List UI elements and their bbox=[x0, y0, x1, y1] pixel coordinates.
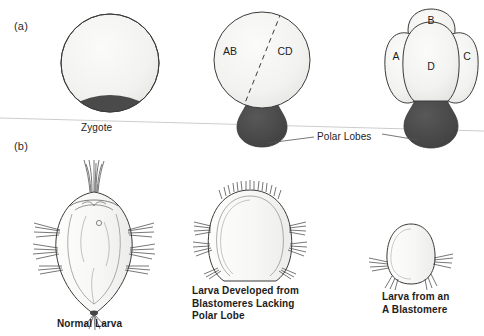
cell-label-d: D bbox=[427, 60, 435, 72]
cell-label-cd: CD bbox=[277, 45, 293, 57]
two-cell-polar-lobe bbox=[237, 103, 287, 147]
apical-tuft-icon bbox=[84, 160, 104, 192]
cell-label-b: B bbox=[427, 14, 434, 26]
lobeless-larva-caption: Larva Developed from Blastomeres Lacking… bbox=[192, 285, 299, 323]
telotroch-spot bbox=[90, 311, 98, 316]
cell-label-a: A bbox=[392, 50, 399, 62]
cell-label-ab: AB bbox=[223, 45, 237, 57]
embryology-figure: (a) (b) bbox=[0, 0, 484, 336]
cell-label-c: C bbox=[463, 50, 471, 62]
normal-larva-drawing bbox=[33, 160, 155, 330]
a-blastomere-larva-body bbox=[387, 224, 435, 284]
larva-from-a-blastomere-drawing bbox=[369, 224, 453, 290]
normal-larva-body bbox=[56, 192, 132, 314]
four-cell-stage-diagram: A B C D bbox=[385, 9, 478, 148]
a-blastomere-larva-caption: Larva from an A Blastomere bbox=[382, 291, 449, 316]
panel-label-a: (a) bbox=[14, 20, 28, 32]
panel-label-b: (b) bbox=[14, 140, 28, 152]
two-cell-body bbox=[214, 12, 310, 108]
four-cell-polar-lobe bbox=[404, 100, 458, 148]
two-cell-stage-diagram: AB CD bbox=[214, 12, 310, 147]
larva-lacking-polar-lobe-drawing bbox=[193, 180, 307, 281]
normal-larva-caption: Normal Larva bbox=[57, 318, 122, 331]
zygote-caption: Zygote bbox=[81, 122, 112, 133]
polar-lobes-annotation: Polar Lobes bbox=[317, 131, 371, 142]
zygote-diagram bbox=[58, 14, 162, 165]
